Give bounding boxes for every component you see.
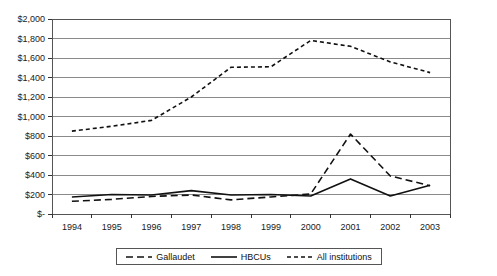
x-axis-tick-label: 2000 — [291, 222, 331, 232]
y-axis-tick-label: $1,800 — [0, 34, 45, 44]
x-axis-tick-label: 2002 — [370, 222, 410, 232]
chart-container: $-$200$400$600$800$1,000$1,200$1,400$1,6… — [0, 0, 497, 276]
series-line-gallaudet — [72, 134, 430, 201]
x-axis-tick-label: 1996 — [132, 222, 172, 232]
legend-item-gallaudet: Gallaudet — [126, 252, 195, 262]
x-axis-tick-label: 2003 — [410, 222, 450, 232]
y-axis-tick-label: $800 — [0, 131, 45, 141]
chart-plot-area — [0, 0, 497, 276]
y-axis-ticks — [48, 19, 52, 214]
legend-label: All institutions — [317, 252, 372, 262]
chart-legend: GallaudetHBCUsAll institutions — [116, 248, 382, 265]
y-axis-tick-label: $200 — [0, 190, 45, 200]
legend-swatch-short-dash-icon — [287, 253, 313, 261]
y-axis-tick-label: $400 — [0, 170, 45, 180]
y-axis-tick-label: $1,600 — [0, 53, 45, 63]
series-line-all-institutions — [72, 40, 430, 131]
legend-label: HBCUs — [241, 252, 271, 262]
x-axis-tick-label: 1995 — [92, 222, 132, 232]
legend-swatch-long-dash-icon — [126, 253, 152, 261]
x-axis-tick-label: 2001 — [331, 222, 371, 232]
gridlines — [52, 19, 450, 214]
y-axis-tick-label: $2,000 — [0, 14, 45, 24]
x-axis-tick-label: 1998 — [211, 222, 251, 232]
legend-label: Gallaudet — [156, 252, 195, 262]
x-axis-tick-label: 1999 — [251, 222, 291, 232]
x-axis-ticks — [52, 214, 450, 218]
x-axis-tick-label: 1994 — [52, 222, 92, 232]
legend-swatch-solid-icon — [211, 253, 237, 261]
data-series — [72, 40, 430, 201]
y-axis-tick-label: $600 — [0, 151, 45, 161]
x-axis-tick-label: 1997 — [171, 222, 211, 232]
y-axis-tick-label: $1,000 — [0, 112, 45, 122]
legend-item-hbcus: HBCUs — [211, 252, 271, 262]
y-axis-tick-label: $1,200 — [0, 92, 45, 102]
legend-item-all-institutions: All institutions — [287, 252, 372, 262]
y-axis-tick-label: $1,400 — [0, 73, 45, 83]
y-axis-tick-label: $- — [0, 209, 45, 219]
